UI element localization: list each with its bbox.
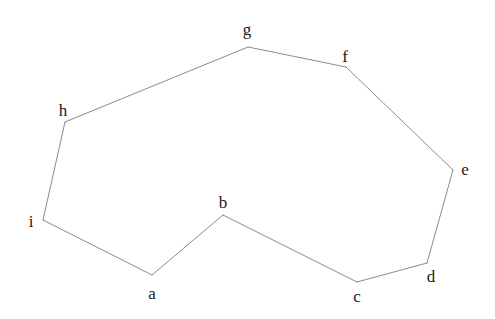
vertex-label-i: i [29, 213, 34, 230]
polygon-svg [0, 0, 495, 319]
vertex-label-h: h [59, 102, 68, 119]
vertex-label-a: a [148, 285, 156, 302]
polygon-edge-a-b [152, 215, 223, 275]
vertex-label-c: c [353, 288, 361, 305]
polygon-edge-f-g [248, 47, 346, 67]
polygon-edge-g-h [65, 47, 248, 122]
vertex-label-f: f [342, 48, 348, 65]
polygon-edge-c-d [357, 263, 427, 282]
diagram-canvas: abcdefghi [0, 0, 495, 319]
polygon-edge-e-f [346, 67, 453, 170]
polygon-edges [43, 47, 453, 282]
vertex-label-e: e [461, 161, 469, 178]
vertex-label-d: d [427, 268, 436, 285]
polygon-edge-h-i [43, 122, 65, 220]
polygon-edge-i-a [43, 220, 152, 275]
vertex-label-b: b [219, 194, 228, 211]
vertex-label-g: g [243, 21, 252, 38]
polygon-edge-d-e [427, 170, 453, 263]
polygon-edge-b-c [223, 215, 357, 282]
